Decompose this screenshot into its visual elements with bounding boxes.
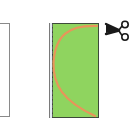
cut-panel	[49, 23, 99, 118]
cut-panel-graphic	[49, 23, 99, 118]
diagram-canvas	[0, 0, 135, 126]
scissors-icon	[104, 20, 132, 42]
green-tissue	[53, 24, 99, 118]
left-panel	[0, 23, 10, 117]
